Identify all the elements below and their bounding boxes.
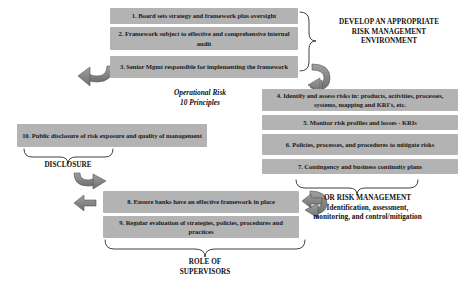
center-label-operational-risk: Operational Risk 10 Principles: [136, 88, 264, 108]
heading-or-risk-management-line1: OR RISK MANAGEMENT: [268, 194, 467, 204]
heading-role-of-supervisors-line1: ROLE OF: [155, 258, 255, 268]
heading-role-of-supervisors-line2: SUPERVISORS: [155, 268, 255, 278]
heading-or-risk-management-line3: monitoring, and control/mitigation: [268, 213, 467, 223]
heading-or-risk-management-line2: Identification, assessment,: [268, 204, 467, 214]
heading-develop-environment-line1: DEVELOP AN APPROPRIATE: [314, 18, 464, 28]
heading-or-risk-management: OR RISK MANAGEMENT Identification, asses…: [268, 194, 467, 223]
brace-or-risk-management: [296, 180, 418, 195]
heading-develop-environment-line3: ENVIRONMENT: [314, 37, 464, 47]
principle-box-5[interactable]: 5. Monitor risk profiles and losses - KR…: [262, 115, 458, 130]
principle-box-10[interactable]: 10. Public disclosure of risk exposure a…: [17, 124, 207, 147]
heading-develop-environment-line2: RISK MANAGEMENT: [314, 28, 464, 38]
principle-box-6[interactable]: 6. Policies, processes, and procedures t…: [262, 134, 458, 155]
curved-arrow-left: [78, 66, 113, 86]
heading-role-of-supervisors: ROLE OF SUPERVISORS: [155, 258, 255, 277]
center-label-line2: 10 Principles: [136, 98, 264, 108]
heading-disclosure: DISCLOSURE: [26, 161, 110, 171]
heading-develop-environment: DEVELOP AN APPROPRIATE RISK MANAGEMENT E…: [314, 18, 464, 47]
center-label-line1: Operational Risk: [136, 88, 264, 98]
curved-arrow-left-bottom: [74, 195, 96, 211]
operational-risk-principles-diagram: 1. Board sets strategy and framework plu…: [0, 0, 467, 289]
principle-box-1[interactable]: 1. Board sets strategy and framework plu…: [110, 8, 298, 24]
principle-box-4[interactable]: 4. Identify and assess risks in: product…: [262, 89, 458, 111]
curved-arrow-disclosure: [74, 173, 106, 189]
brace-role-of-supervisors: [105, 240, 305, 257]
principle-box-7[interactable]: 7. Contingency and business continuity p…: [262, 159, 458, 174]
principle-box-2[interactable]: 2. Framework subject to effective and co…: [110, 27, 298, 50]
principle-box-3[interactable]: 3. Senior Mgmt responsible for implement…: [110, 56, 298, 78]
